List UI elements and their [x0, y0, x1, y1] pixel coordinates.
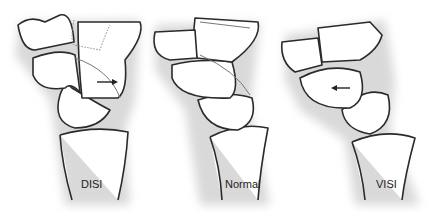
- label-normal: Normal: [225, 178, 260, 190]
- panel-disi: [15, 15, 141, 205]
- label-visi: VISI: [376, 178, 397, 190]
- label-disi: DISI: [81, 178, 102, 190]
- panel-normal: [154, 18, 270, 205]
- wrist-diagram: DISI Normal VISI: [0, 0, 430, 212]
- trapezium-bone: [154, 30, 197, 60]
- wrist-illustration: [0, 0, 430, 212]
- panel-visi: [282, 20, 420, 205]
